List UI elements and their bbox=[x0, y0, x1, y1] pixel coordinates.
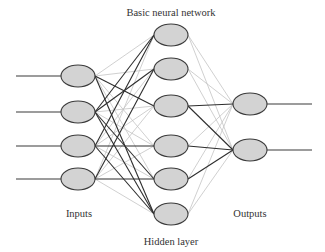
strong-connection bbox=[188, 104, 233, 106]
weak-connection bbox=[188, 69, 233, 104]
weak-connection bbox=[188, 104, 233, 179]
strong-connection bbox=[95, 35, 154, 112]
strong-connection bbox=[95, 146, 154, 214]
strong-connection bbox=[188, 106, 233, 150]
input-node bbox=[61, 65, 95, 87]
weak-connection bbox=[188, 35, 233, 150]
input-node bbox=[61, 135, 95, 157]
hidden-node bbox=[154, 203, 188, 225]
diagram-title: Basic neural network bbox=[126, 7, 216, 18]
input-node bbox=[61, 168, 95, 190]
strong-connection bbox=[188, 150, 233, 179]
hidden-layer-label: Hidden layer bbox=[144, 236, 199, 247]
weak-connection bbox=[95, 106, 154, 146]
hidden-node bbox=[154, 168, 188, 190]
weak-connection bbox=[95, 179, 154, 214]
inputs-label: Inputs bbox=[66, 208, 92, 219]
outputs-label: Outputs bbox=[233, 208, 266, 219]
strong-connection bbox=[188, 146, 233, 150]
output-node bbox=[233, 139, 267, 161]
neural-network-diagram: Basic neural network Inputs Hidden layer… bbox=[0, 0, 325, 252]
io-lines bbox=[16, 76, 312, 179]
weak-connection bbox=[188, 69, 233, 150]
hidden-node bbox=[154, 95, 188, 117]
nodes bbox=[61, 24, 267, 225]
hidden-node bbox=[154, 58, 188, 80]
input-node bbox=[61, 101, 95, 123]
weak-connection bbox=[188, 35, 233, 104]
hidden-node bbox=[154, 24, 188, 46]
output-node bbox=[233, 93, 267, 115]
hidden-node bbox=[154, 135, 188, 157]
